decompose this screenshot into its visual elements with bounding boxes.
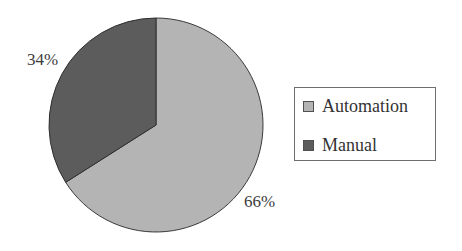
legend-label-automation: Automation <box>322 96 408 116</box>
legend: Automation Manual <box>294 87 436 161</box>
legend-item-manual: Manual <box>303 135 377 155</box>
data-label-automation: 66% <box>244 193 275 210</box>
legend-swatch-manual-icon <box>303 140 314 151</box>
legend-swatch-automation-icon <box>303 101 314 112</box>
legend-item-automation: Automation <box>303 96 408 116</box>
legend-label-manual: Manual <box>322 135 377 155</box>
pie-chart: 34% 66% Automation Manual <box>0 0 462 251</box>
data-label-manual: 34% <box>27 51 58 68</box>
